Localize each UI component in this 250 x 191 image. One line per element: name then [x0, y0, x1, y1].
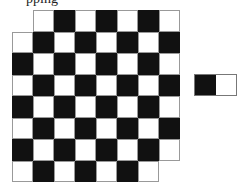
- dark-square: [159, 32, 180, 54]
- dark-square: [54, 53, 75, 75]
- dark-square: [54, 10, 75, 32]
- light-square: [117, 96, 138, 118]
- light-square: [12, 75, 33, 97]
- dark-square: [33, 161, 54, 183]
- dark-square: [96, 10, 117, 32]
- dark-square: [33, 32, 54, 54]
- light-square: [75, 10, 96, 32]
- dark-square: [96, 53, 117, 75]
- light-square: [12, 118, 33, 140]
- light-square: [159, 53, 180, 75]
- light-square: [117, 10, 138, 32]
- light-square: [138, 161, 159, 183]
- dark-square: [75, 75, 96, 97]
- light-square: [54, 32, 75, 54]
- light-square: [33, 96, 54, 118]
- mutilated-chessboard: [12, 10, 180, 182]
- dark-square: [138, 139, 159, 161]
- light-square: [117, 53, 138, 75]
- light-square: [75, 53, 96, 75]
- light-square: [33, 10, 54, 32]
- dark-square: [54, 96, 75, 118]
- light-square: [159, 139, 180, 161]
- light-square: [138, 32, 159, 54]
- dark-square: [75, 118, 96, 140]
- dark-square: [117, 118, 138, 140]
- dark-square: [138, 10, 159, 32]
- dark-square: [33, 75, 54, 97]
- dark-square: [12, 96, 33, 118]
- dark-square: [159, 75, 180, 97]
- light-square: [54, 161, 75, 183]
- light-square: [96, 118, 117, 140]
- dark-square: [159, 118, 180, 140]
- light-square: [96, 161, 117, 183]
- light-square: [54, 118, 75, 140]
- light-square: [33, 139, 54, 161]
- dark-square: [12, 139, 33, 161]
- light-square: [12, 32, 33, 54]
- dark-square: [33, 118, 54, 140]
- removed-square: [12, 10, 33, 32]
- domino: [194, 74, 237, 96]
- dark-square: [117, 161, 138, 183]
- light-square: [96, 32, 117, 54]
- caption-fragment: pping: [26, 0, 58, 7]
- dark-square: [117, 75, 138, 97]
- light-square: [33, 53, 54, 75]
- dark-square: [96, 139, 117, 161]
- dark-square: [54, 139, 75, 161]
- light-square: [54, 75, 75, 97]
- domino-dark-square: [195, 75, 216, 95]
- dark-square: [138, 53, 159, 75]
- domino-light-square: [216, 75, 237, 95]
- light-square: [75, 139, 96, 161]
- light-square: [159, 10, 180, 32]
- light-square: [96, 75, 117, 97]
- light-square: [138, 75, 159, 97]
- light-square: [138, 118, 159, 140]
- dark-square: [96, 96, 117, 118]
- dark-square: [12, 53, 33, 75]
- light-square: [117, 139, 138, 161]
- dark-square: [117, 32, 138, 54]
- dark-square: [138, 96, 159, 118]
- dark-square: [75, 161, 96, 183]
- removed-square: [159, 161, 180, 183]
- dark-square: [75, 32, 96, 54]
- light-square: [159, 96, 180, 118]
- light-square: [75, 96, 96, 118]
- light-square: [12, 161, 33, 183]
